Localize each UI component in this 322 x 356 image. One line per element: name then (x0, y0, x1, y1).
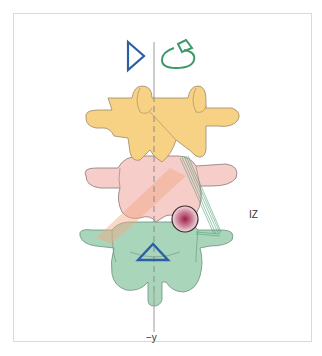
label-axis: −y (146, 332, 157, 343)
upper-vertebra (86, 86, 239, 162)
rotation-arrow-icon (162, 40, 194, 68)
lesion-marker (172, 206, 198, 232)
triangle-right-icon (128, 42, 144, 70)
spine-diagram (0, 0, 322, 356)
label-iz: IZ (249, 209, 258, 220)
